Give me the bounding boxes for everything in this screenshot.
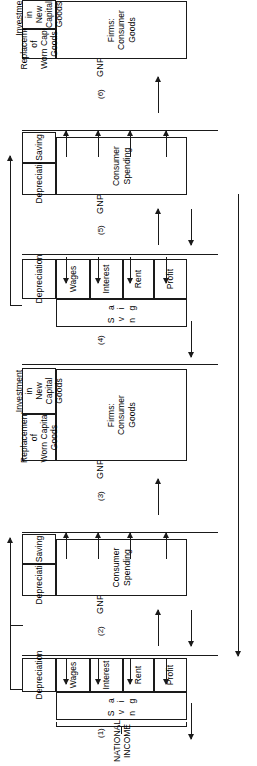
box-saving-5: Saving: [22, 132, 56, 163]
box-investment-3: Investment in New Capital Goods: [22, 368, 56, 414]
flow-arrow-2a: [62, 658, 71, 684]
flow-arrow-5c: [126, 257, 135, 283]
box-investment-6-label: Investment in New Capital Goods: [14, 0, 64, 38]
panel-6: (6) GNP II Firms: Consumer Goods Replace…: [0, 0, 257, 131]
flow-arrow-2b: [94, 658, 103, 684]
box-saving-4: S a v i n g: [56, 299, 187, 327]
flow-arrow-3a: [62, 533, 71, 559]
flow-arrow-2d: [162, 658, 171, 684]
flow-arrow-5d: [162, 257, 171, 283]
panel-2-outflow-arrow: [154, 610, 163, 646]
national-income-line2: INCOME: [122, 724, 132, 758]
box-depreciation-4-label: Depreciation: [34, 253, 44, 306]
box-replacement-3: Replacement of Worn Capital Goods: [22, 414, 56, 461]
flow-arrow-5b: [94, 257, 103, 283]
panel-6-outflow-arrow: [154, 77, 163, 113]
panel-5-number: (5): [96, 225, 105, 235]
saving-elbow-1-bottom: [10, 626, 11, 690]
box-investment-3-label: Investment in New Capital Goods: [14, 368, 64, 415]
box-saving-4-label: S a v i n g: [106, 300, 136, 326]
saving-elbow-4-left: [10, 305, 22, 306]
box-firms-consumer-goods-6: Firms: Consumer Goods: [56, 1, 187, 59]
panel-2-inflow-arrow: [187, 610, 196, 646]
national-income-label: NATIONAL INCOME: [100, 708, 144, 766]
saving-elbow-1-left: [10, 689, 22, 690]
return-flow-arrow: [234, 194, 243, 656]
panel-3-number: (3): [96, 491, 105, 501]
box-investment-6: Investment in New Capital Goods: [22, 0, 56, 29]
box-saving-2: Saving: [22, 534, 56, 564]
panel-2-number: (2): [96, 626, 105, 636]
box-depreciation-1-label: Depreciation: [34, 649, 44, 702]
box-firms-consumer-goods-6-label: Firms: Consumer Goods: [106, 8, 136, 52]
panel-6-number: (6): [96, 89, 105, 99]
box-depreciation-5: Depreciation: [22, 163, 56, 195]
national-income-line1: NATIONAL: [112, 720, 122, 762]
box-replacement-3-label: Replacement of Worn Capital Goods: [19, 410, 59, 465]
panel-1-inflow-arrow: [187, 703, 196, 739]
flow-arrow-5a: [62, 257, 71, 283]
panel-5-outflow-arrow: [154, 209, 163, 245]
flow-arrow-6c: [126, 131, 135, 157]
box-firms-consumer-goods-3: Firms: Consumer Goods: [56, 369, 187, 461]
saving-elbow-4-bottom: [10, 240, 11, 306]
box-saving-2-label: Saving: [34, 534, 44, 565]
flow-arrow-6a: [62, 131, 71, 157]
panel-5-inflow-arrow: [187, 209, 196, 245]
box-saving-5-label: Saving: [34, 132, 44, 163]
flow-arrow-6d: [162, 131, 171, 157]
panel-3-outflow-arrow: [154, 479, 163, 515]
panel-4-number: (4): [96, 335, 105, 345]
box-depreciation-4: Depreciation: [22, 259, 56, 299]
saving-to-investment-arrow-4: [6, 156, 15, 240]
panel-3: (3) GNP I Firms: Consumer Goods Replacem…: [0, 365, 257, 533]
saving-to-investment-arrow-1: [6, 538, 15, 626]
flow-arrow-3b: [94, 533, 103, 559]
flow-arrow-2c: [126, 658, 135, 684]
flow-arrow-3d: [162, 533, 171, 559]
box-firms-consumer-goods-3-label: Firms: Consumer Goods: [106, 393, 136, 437]
box-depreciation-1: Depreciation: [22, 658, 56, 692]
flow-arrow-6b: [94, 131, 103, 157]
flow-arrow-3c: [126, 533, 135, 559]
box-depreciation-2: Depreciation: [22, 564, 56, 596]
panel-4-inflow-arrow: [187, 321, 196, 357]
